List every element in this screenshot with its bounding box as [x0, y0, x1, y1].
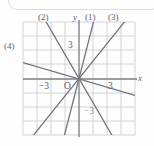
line-tag-3: (3) — [108, 12, 119, 22]
y-tick-label-positive-3: 3 — [68, 40, 73, 50]
coordinate-plane — [0, 0, 154, 146]
y-axis-label: y — [73, 12, 77, 22]
line-tag-4: (4) — [4, 41, 15, 51]
line-tag-2: (2) — [38, 12, 49, 22]
line-tag-1: (1) — [85, 12, 96, 22]
x-tick-label-positive-3: 3 — [108, 81, 113, 91]
x-tick-label-negative-3: −3 — [39, 81, 49, 91]
y-tick-label-negative-3: −3 — [84, 106, 94, 116]
figure-container: x y −3 3 3 −3 O (2) (1) (3) (4) — [0, 0, 154, 146]
origin-label: O — [64, 81, 71, 91]
x-axis-label: x — [138, 73, 142, 83]
